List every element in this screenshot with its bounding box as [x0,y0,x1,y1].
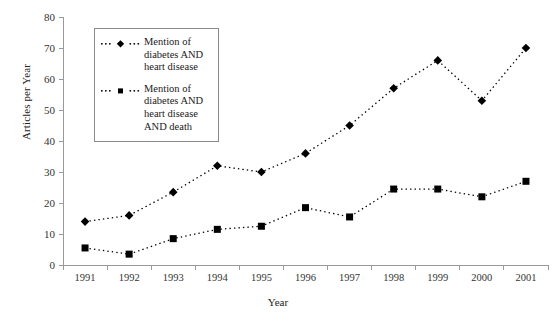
data-point [302,204,309,211]
chart-legend: Mention of diabetes AND heart disease [94,28,219,142]
data-point [434,186,441,193]
data-point [345,121,354,130]
data-point [214,226,221,233]
data-point [213,162,222,171]
legend-label-square-line4: AND death [144,121,203,134]
data-point [125,211,134,220]
data-point [169,188,178,197]
data-point [346,213,353,220]
data-point [126,251,133,258]
data-point [170,235,177,242]
legend-label-diamond-line3: heart disease [144,61,203,74]
legend-label-square-line1: Mention of [144,83,203,96]
legend-item-square: Mention of diabetes AND heart disease AN… [101,83,212,133]
legend-label-square-line2: diabetes AND [144,95,203,108]
data-point [478,193,485,200]
legend-label-square-line3: heart disease [144,108,203,121]
legend-marker-square-icon [101,84,141,97]
legend-label-diamond: Mention of diabetes AND heart disease [141,36,203,74]
data-point [82,244,89,251]
chart-container: Articles per Year Year 01020304050607080… [0,0,556,318]
data-point [301,149,310,158]
legend-label-diamond-line1: Mention of [144,36,203,49]
data-point [390,186,397,193]
data-point [257,168,266,177]
legend-item-diamond: Mention of diabetes AND heart disease [101,36,212,74]
data-point [258,223,265,230]
data-point [433,56,442,65]
legend-label-diamond-line2: diabetes AND [144,49,203,62]
legend-marker-diamond-icon [101,37,141,50]
plot-area [0,0,556,318]
data-point [81,217,90,226]
data-point [389,84,398,93]
series-square [82,178,530,258]
legend-label-square: Mention of diabetes AND heart disease AN… [141,83,203,133]
data-point [522,44,531,53]
data-point [522,178,529,185]
